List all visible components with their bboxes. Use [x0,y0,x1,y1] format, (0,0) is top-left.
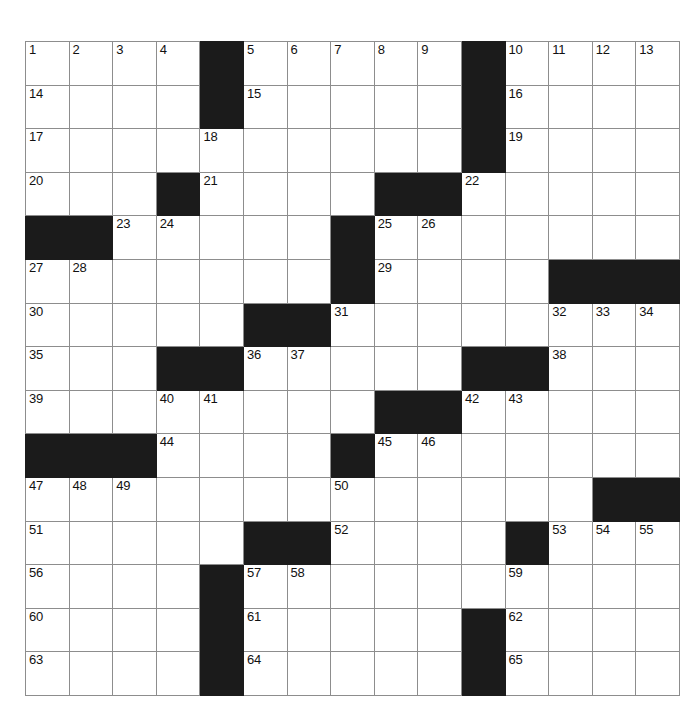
crossword-cell[interactable] [592,434,636,478]
crossword-cell[interactable]: 48 [69,477,113,521]
crossword-cell[interactable] [549,434,593,478]
crossword-cell[interactable]: 23 [113,216,157,260]
crossword-cell[interactable] [287,390,331,434]
crossword-cell[interactable] [113,652,157,696]
crossword-cell[interactable] [418,652,462,696]
crossword-cell[interactable]: 29 [374,259,418,303]
crossword-cell[interactable]: 18 [200,129,244,173]
crossword-cell[interactable] [113,259,157,303]
crossword-cell[interactable] [69,521,113,565]
crossword-cell[interactable] [287,477,331,521]
crossword-cell[interactable]: 33 [592,303,636,347]
crossword-cell[interactable]: 12 [592,42,636,86]
crossword-cell[interactable] [200,521,244,565]
crossword-cell[interactable]: 40 [156,390,200,434]
crossword-cell[interactable] [200,434,244,478]
crossword-cell[interactable] [505,172,549,216]
crossword-cell[interactable] [461,303,505,347]
crossword-cell[interactable] [636,85,680,129]
crossword-cell[interactable]: 4 [156,42,200,86]
crossword-cell[interactable] [69,303,113,347]
crossword-cell[interactable]: 42 [461,390,505,434]
crossword-cell[interactable] [505,477,549,521]
crossword-cell[interactable] [69,652,113,696]
crossword-cell[interactable]: 36 [243,347,287,391]
crossword-cell[interactable]: 65 [505,652,549,696]
crossword-cell[interactable]: 64 [243,652,287,696]
crossword-cell[interactable] [636,216,680,260]
crossword-cell[interactable] [549,608,593,652]
crossword-cell[interactable] [287,216,331,260]
crossword-cell[interactable] [374,129,418,173]
crossword-cell[interactable] [549,477,593,521]
crossword-cell[interactable] [549,652,593,696]
crossword-cell[interactable] [418,477,462,521]
crossword-cell[interactable]: 20 [26,172,70,216]
crossword-cell[interactable] [592,652,636,696]
crossword-cell[interactable] [505,303,549,347]
crossword-cell[interactable]: 19 [505,129,549,173]
crossword-cell[interactable]: 6 [287,42,331,86]
crossword-cell[interactable] [636,608,680,652]
crossword-cell[interactable] [156,85,200,129]
crossword-cell[interactable] [156,259,200,303]
crossword-cell[interactable] [113,608,157,652]
crossword-cell[interactable] [331,565,375,609]
crossword-cell[interactable] [636,390,680,434]
crossword-cell[interactable] [418,259,462,303]
crossword-cell[interactable] [374,521,418,565]
crossword-cell[interactable] [243,129,287,173]
crossword-cell[interactable] [156,129,200,173]
crossword-cell[interactable] [156,652,200,696]
crossword-cell[interactable] [461,477,505,521]
crossword-cell[interactable] [69,172,113,216]
crossword-cell[interactable] [156,477,200,521]
crossword-cell[interactable] [461,434,505,478]
crossword-cell[interactable]: 38 [549,347,593,391]
crossword-cell[interactable] [113,85,157,129]
crossword-cell[interactable] [461,259,505,303]
crossword-cell[interactable]: 60 [26,608,70,652]
crossword-cell[interactable] [549,129,593,173]
crossword-cell[interactable] [374,608,418,652]
crossword-cell[interactable]: 22 [461,172,505,216]
crossword-cell[interactable] [113,390,157,434]
crossword-cell[interactable] [243,434,287,478]
crossword-cell[interactable] [331,85,375,129]
crossword-cell[interactable] [505,434,549,478]
crossword-cell[interactable] [113,521,157,565]
crossword-cell[interactable]: 32 [549,303,593,347]
crossword-cell[interactable]: 54 [592,521,636,565]
crossword-cell[interactable] [287,652,331,696]
crossword-cell[interactable]: 5 [243,42,287,86]
crossword-cell[interactable]: 41 [200,390,244,434]
crossword-cell[interactable]: 61 [243,608,287,652]
crossword-cell[interactable] [418,608,462,652]
crossword-cell[interactable] [592,129,636,173]
crossword-cell[interactable] [549,565,593,609]
crossword-cell[interactable]: 28 [69,259,113,303]
crossword-cell[interactable] [374,477,418,521]
crossword-cell[interactable] [636,172,680,216]
crossword-cell[interactable]: 45 [374,434,418,478]
crossword-cell[interactable] [243,172,287,216]
crossword-cell[interactable]: 30 [26,303,70,347]
crossword-cell[interactable]: 3 [113,42,157,86]
crossword-cell[interactable]: 58 [287,565,331,609]
crossword-cell[interactable]: 17 [26,129,70,173]
crossword-cell[interactable]: 39 [26,390,70,434]
crossword-cell[interactable]: 56 [26,565,70,609]
crossword-cell[interactable] [69,85,113,129]
crossword-cell[interactable] [243,390,287,434]
crossword-cell[interactable]: 52 [331,521,375,565]
crossword-cell[interactable]: 2 [69,42,113,86]
crossword-cell[interactable] [69,347,113,391]
crossword-cell[interactable]: 7 [331,42,375,86]
crossword-cell[interactable] [374,303,418,347]
crossword-cell[interactable] [505,259,549,303]
crossword-cell[interactable]: 26 [418,216,462,260]
crossword-cell[interactable] [156,608,200,652]
crossword-cell[interactable] [331,390,375,434]
crossword-cell[interactable] [200,477,244,521]
crossword-cell[interactable] [113,565,157,609]
